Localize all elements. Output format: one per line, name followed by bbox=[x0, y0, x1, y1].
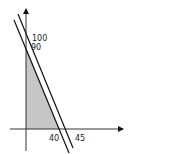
x-label-40: 40 bbox=[49, 134, 59, 143]
y-label-100: 100 bbox=[32, 34, 47, 43]
lp-diagram: 100 90 40 45 bbox=[0, 0, 193, 154]
x-label-45: 45 bbox=[75, 134, 85, 143]
y-label-90: 90 bbox=[31, 43, 41, 52]
